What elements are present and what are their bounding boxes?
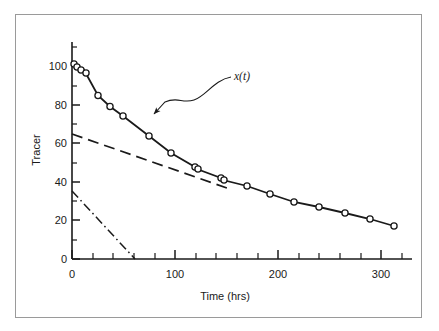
data-point (95, 92, 101, 98)
data-point (391, 223, 397, 229)
y-tick-label-100: 100 (49, 60, 67, 72)
y-axis-title: Tracer (30, 134, 42, 166)
data-point (168, 150, 174, 156)
y-tick-label-20: 20 (55, 214, 67, 226)
annotation-leader-arrow (154, 77, 231, 114)
series-fast-component-dash-dot (72, 191, 135, 259)
y-tick-label-60: 60 (55, 137, 67, 149)
series-slow-component-dashed (72, 134, 227, 188)
data-point (367, 216, 373, 222)
x-axis-tick-labels: 0 100 200 300 (69, 268, 390, 280)
y-tick-label-80: 80 (55, 99, 67, 111)
data-point (342, 210, 348, 216)
data-point (107, 103, 113, 109)
data-point (221, 177, 227, 183)
series-xt-line (74, 64, 394, 226)
x-axis-ticks (72, 250, 402, 259)
data-point (120, 113, 126, 119)
data-point (267, 191, 273, 197)
y-axis-tick-labels: 100 80 60 40 20 0 (49, 60, 67, 265)
x-tick-label-300: 300 (372, 268, 390, 280)
series-xt-markers (71, 61, 397, 229)
data-point (146, 133, 152, 139)
data-point (195, 166, 201, 172)
y-tick-label-0: 0 (61, 253, 67, 265)
x-axis-title: Time (hrs) (200, 290, 250, 302)
y-tick-label-40: 40 (55, 176, 67, 188)
data-point (316, 204, 322, 210)
x-tick-label-200: 200 (269, 268, 287, 280)
data-point (291, 199, 297, 205)
x-tick-label-100: 100 (166, 268, 184, 280)
series-label-xt: x(t) (233, 70, 250, 83)
data-point (244, 183, 250, 189)
x-tick-label-0: 0 (69, 268, 75, 280)
y-axis-ticks (72, 47, 80, 259)
tracer-decay-chart: 100 80 60 40 20 0 0 100 200 300 Time (hr… (0, 0, 439, 331)
data-point (83, 70, 89, 76)
